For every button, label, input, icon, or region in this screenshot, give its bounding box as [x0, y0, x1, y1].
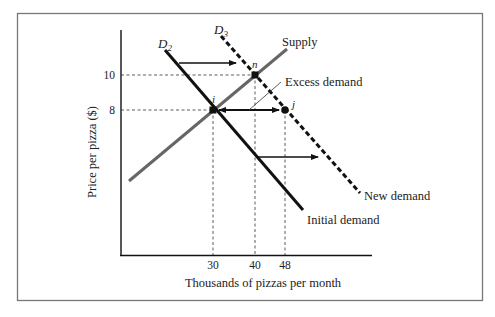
supply-curve [129, 49, 287, 181]
x-axis-title: Thousands of pizzas per month [185, 276, 342, 290]
supply-label: Supply [282, 35, 318, 49]
point-j-marker [281, 106, 289, 114]
point-n-label: n [252, 58, 258, 70]
new-demand-curve [221, 36, 360, 193]
pizza-market-chart: D2 D3 Supply Excess demand New demand In… [0, 0, 495, 317]
x-tick-48: 48 [279, 259, 291, 271]
point-j-label: j [290, 98, 295, 110]
excess-demand-label: Excess demand [285, 75, 363, 89]
x-tick-40: 40 [249, 259, 261, 271]
initial-demand-curve [165, 50, 303, 210]
y-tick-10: 10 [104, 69, 116, 81]
y-axis-title: Price per pizza ($) [85, 106, 99, 198]
new-demand-label: New demand [364, 189, 431, 203]
point-i-marker [210, 107, 217, 114]
initial-demand-label: Initial demand [307, 213, 380, 227]
d3-label: D3 [213, 22, 228, 39]
point-i-label: i [212, 93, 215, 105]
y-tick-8: 8 [109, 104, 115, 116]
d2-label: D2 [157, 36, 172, 53]
point-n-marker [252, 72, 259, 79]
guide-lines [121, 75, 285, 255]
x-tick-30: 30 [207, 259, 219, 271]
